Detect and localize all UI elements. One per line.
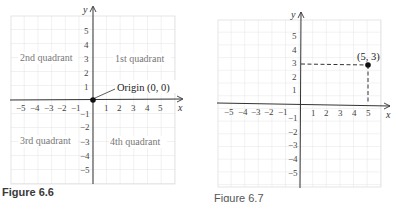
y-tick: −5 [80,165,90,175]
x-tick: −4 [30,103,40,113]
x-tick: −3 [44,103,54,113]
origin-point [90,97,96,103]
x-tick: 4 [145,103,150,113]
figure-6-6: y x 5 4 3 2 1 −1 −2 −3 −4 −5 −5 −4 −3 −2… [10,4,183,184]
x-tick: 5 [158,103,163,113]
x-tick: −1 [71,103,81,113]
figure-6-7-caption: Figure 6.7 [214,192,264,202]
y-axis-label: y [82,4,88,15]
origin-label: Origin (0, 0) [117,82,170,94]
y-tick: −2 [288,127,298,137]
y-tick: −4 [288,154,298,164]
y-tick: 4 [292,45,297,55]
quadrant-2-label: 2nd quadrant [20,52,73,63]
point-label: (5, 3) [357,51,380,63]
quadrant-3-label: 3rd quadrant [20,135,71,146]
y-tick: 5 [292,31,297,41]
x-tick: 2 [117,103,122,113]
y-tick: −5 [288,168,298,178]
y-tick: 3 [84,54,89,64]
y-tick: 2 [84,68,89,78]
y-tick: −2 [80,122,90,132]
y-tick: 4 [84,40,89,50]
figures-canvas: y x 5 4 3 2 1 −1 −2 −3 −4 −5 −5 −4 −3 −2… [0,0,398,202]
y-tick: −1 [288,113,298,123]
x-tick: 3 [131,103,136,113]
y-tick: 2 [292,72,297,82]
x-tick: 2 [324,108,329,118]
y-tick: −3 [80,137,90,147]
figure-6-7: y x 5 4 3 2 1 −1 −2 −3 −4 −5 −5 −4 −3 −2… [217,9,391,188]
y-tick: −3 [288,140,298,150]
x-tick: −3 [251,107,261,117]
y-tick: 5 [84,26,89,36]
figure-6-6-caption: Figure 6.6 [2,186,54,198]
x-tick: −2 [57,103,67,113]
x-tick: −5 [224,107,234,117]
y-tick: 1 [292,85,297,95]
x-axis-label: x [385,109,391,120]
y-tick: 3 [292,58,297,68]
x-tick: −1 [278,107,288,117]
x-tick: 1 [311,108,316,118]
quadrant-4-label: 4th quadrant [110,136,160,147]
y-axis-label: y [290,9,296,20]
y-tick: −4 [80,151,90,161]
x-tick: 1 [104,103,109,113]
x-axis-label: x [177,102,183,113]
x-tick: −4 [238,107,248,117]
x-tick: 4 [352,108,357,118]
quadrant-1-label: 1st quadrant [115,53,164,64]
point-5-3 [365,62,371,68]
y-tick: −1 [80,109,90,119]
y-tick: 1 [84,82,89,92]
x-tick: −2 [264,107,274,117]
x-tick: 5 [366,108,371,118]
x-tick: 3 [338,108,343,118]
x-tick: −5 [16,103,26,113]
